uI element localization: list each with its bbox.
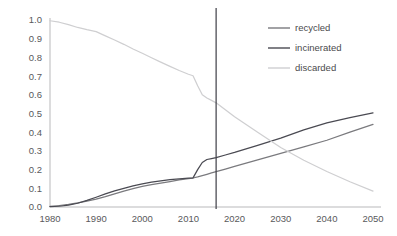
y-axis-tick-label: 0.2 xyxy=(29,164,42,175)
y-axis-tick-label: 0.1 xyxy=(29,183,42,194)
y-axis-tick-labels: 0.00.10.20.30.40.50.60.70.80.91.0 xyxy=(29,14,42,212)
y-axis-tick-label: 0.6 xyxy=(29,89,42,100)
series-line-incinerated xyxy=(50,113,373,207)
legend-label-recycled: recycled xyxy=(295,22,330,33)
y-axis-tick-label: 0.0 xyxy=(29,201,42,212)
legend-label-incinerated: incinerated xyxy=(295,42,341,53)
chart-container: 0.00.10.20.30.40.50.60.70.80.91.0 198019… xyxy=(0,0,397,236)
x-axis-tick-label: 2010 xyxy=(178,213,199,224)
line-chart: 0.00.10.20.30.40.50.60.70.80.91.0 198019… xyxy=(0,0,397,236)
x-axis-tick-label: 2030 xyxy=(270,213,291,224)
y-axis-tick-label: 0.8 xyxy=(29,52,42,63)
legend-label-discarded: discarded xyxy=(295,62,336,73)
y-axis-tick-label: 0.4 xyxy=(29,127,42,138)
series-line-recycled xyxy=(50,124,373,206)
chart-legend: recycledincinerateddiscarded xyxy=(268,22,341,73)
x-axis-tick-label: 2050 xyxy=(362,213,383,224)
x-axis-tick-label: 1990 xyxy=(86,213,107,224)
y-axis-tick-label: 1.0 xyxy=(29,14,42,25)
x-axis-tick-label: 2020 xyxy=(224,213,245,224)
x-axis-tick-label: 2000 xyxy=(132,213,153,224)
x-axis-tick-label: 1980 xyxy=(39,213,60,224)
y-axis-tick-label: 0.7 xyxy=(29,71,42,82)
y-axis-tick-label: 0.9 xyxy=(29,33,42,44)
x-axis-tick-labels: 19801990200020102020203020402050 xyxy=(39,213,383,224)
y-axis-tick-label: 0.5 xyxy=(29,108,42,119)
y-axis-tick-label: 0.3 xyxy=(29,145,42,156)
x-axis-tick-label: 2040 xyxy=(316,213,337,224)
